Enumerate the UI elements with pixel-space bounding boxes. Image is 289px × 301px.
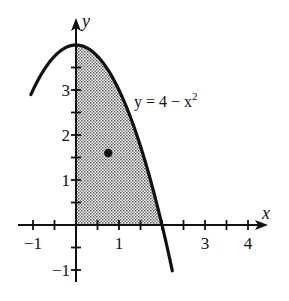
y-tick-labels: 321−1 bbox=[52, 81, 70, 280]
y-tick-label: 3 bbox=[62, 81, 71, 100]
chart-canvas: x y y = 4 − x2 −1134 321−1 bbox=[0, 0, 289, 301]
equation-text: y = 4 − x bbox=[134, 93, 192, 111]
x-tick-label: 3 bbox=[201, 234, 210, 253]
x-tick-labels: −1134 bbox=[24, 234, 253, 253]
equation-exponent: 2 bbox=[192, 90, 198, 102]
x-axis-label: x bbox=[261, 203, 270, 223]
y-tick-label: 2 bbox=[62, 126, 71, 145]
shaded-region bbox=[76, 45, 162, 225]
x-tick-label: −1 bbox=[24, 234, 42, 253]
curve-equation-label: y = 4 − x2 bbox=[134, 90, 198, 111]
y-tick-label: −1 bbox=[52, 261, 70, 280]
x-tick-label: 1 bbox=[115, 234, 124, 253]
x-tick-label: 4 bbox=[244, 234, 253, 253]
centroid-point bbox=[104, 149, 112, 157]
parabola-chart: x y y = 4 − x2 −1134 321−1 bbox=[0, 0, 289, 301]
y-tick-label: 1 bbox=[62, 171, 71, 190]
y-axis-label: y bbox=[80, 11, 90, 31]
